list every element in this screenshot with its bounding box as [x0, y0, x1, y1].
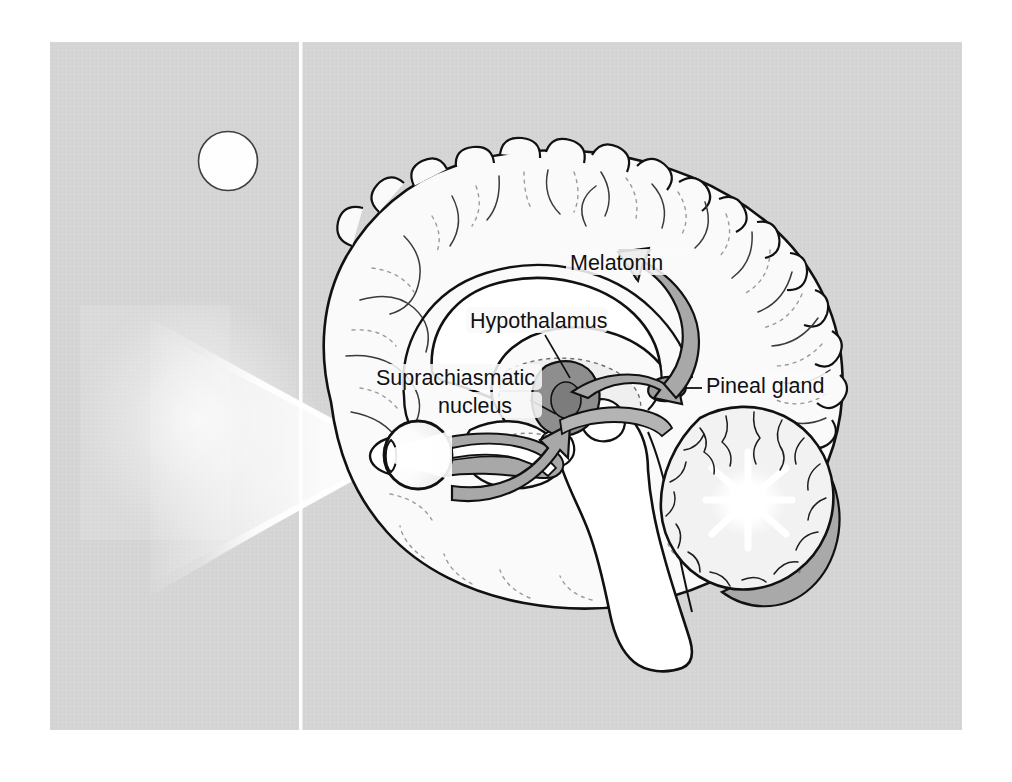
circadian-pathway-diagram: Melatonin Hypothalamus Suprachiasmatic n… — [0, 0, 1012, 782]
label-suprachiasmatic-line2: nucleus — [438, 394, 512, 418]
label-melatonin: Melatonin — [570, 251, 663, 275]
sun — [199, 132, 258, 191]
figure-canvas: Melatonin Hypothalamus Suprachiasmatic n… — [0, 0, 1012, 782]
label-suprachiasmatic-line1: Suprachiasmatic — [376, 366, 535, 390]
figure-panel: Melatonin Hypothalamus Suprachiasmatic n… — [50, 42, 962, 730]
label-hypothalamus: Hypothalamus — [470, 309, 607, 333]
label-pineal-gland: Pineal gland — [706, 374, 824, 398]
wall-corner-line — [299, 42, 303, 730]
